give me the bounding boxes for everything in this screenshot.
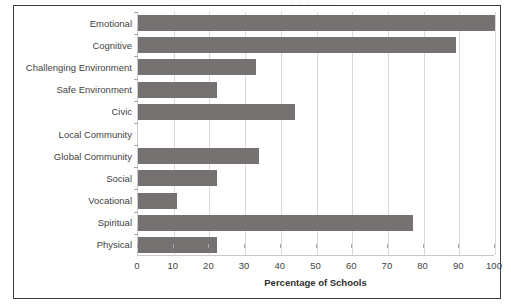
x-tick-label-50: 50 [310,260,321,272]
category-label-challenging-environment: Challenging Environment [14,62,132,73]
y-tick-mark [134,101,138,102]
bar-challenging-environment [138,59,256,75]
bar-cognitive [138,37,456,53]
y-tick-mark [134,167,138,168]
x-axis-tick-labels: 0102030405060708090100 [137,260,494,274]
bar-row [138,37,494,53]
y-tick-mark [134,12,138,13]
bar-vocational [138,193,177,209]
chart-figure: · · · · · · · · · · · · · · · · · · · · … [0,0,511,308]
x-tick-mark-50 [316,244,317,248]
bar-row [138,170,494,186]
category-axis-labels: EmotionalCognitiveChallenging Environmen… [14,12,132,256]
category-label-vocational: Vocational [14,195,132,206]
x-tick-label-70: 70 [382,260,393,272]
category-label-physical: Physical [14,239,132,250]
x-tick-mark-80 [423,244,424,248]
x-tick-label-80: 80 [417,260,428,272]
x-axis-title: Percentage of Schools [137,277,494,288]
bar-social [138,170,217,186]
x-tick-mark-90 [458,244,459,248]
bar-row [138,59,494,75]
category-label-local-community: Local Community [14,129,132,140]
x-tick-label-90: 90 [453,260,464,272]
bar-safe-environment [138,82,217,98]
y-tick-mark [134,79,138,80]
bar-row [138,193,494,209]
x-tick-label-30: 30 [239,260,250,272]
bar-row [138,15,494,31]
y-tick-mark [134,56,138,57]
bars-group [138,12,494,255]
category-label-emotional: Emotional [14,18,132,29]
x-tick-mark-20 [208,244,209,248]
y-tick-mark [134,189,138,190]
category-label-civic: Civic [14,106,132,117]
category-label-spiritual: Spiritual [14,217,132,228]
x-tick-label-60: 60 [346,260,357,272]
y-tick-mark [134,234,138,235]
bar-physical [138,237,217,253]
x-tick-label-0: 0 [134,260,139,272]
bar-row [138,126,494,142]
bar-spiritual [138,215,413,231]
x-tick-label-20: 20 [203,260,214,272]
bar-row [138,104,494,120]
bar-civic [138,104,295,120]
category-label-social: Social [14,173,132,184]
x-tick-label-100: 100 [486,260,502,272]
y-tick-mark [134,145,138,146]
y-tick-mark [134,34,138,35]
category-label-cognitive: Cognitive [14,40,132,51]
bar-row [138,215,494,231]
x-tick-mark-10 [173,244,174,248]
category-label-safe-environment: Safe Environment [14,84,132,95]
x-tick-label-40: 40 [275,260,286,272]
x-tick-mark-0 [137,244,138,248]
gridline-100 [495,12,496,255]
x-tick-label-10: 10 [167,260,178,272]
y-tick-mark [134,212,138,213]
y-tick-mark [134,123,138,124]
x-tick-mark-100 [494,244,495,248]
plot-area [137,12,494,256]
bar-emotional [138,15,495,31]
bar-global-community [138,148,259,164]
bar-row [138,82,494,98]
x-tick-mark-60 [351,244,352,248]
x-tick-mark-40 [280,244,281,248]
x-tick-mark-70 [387,244,388,248]
category-label-global-community: Global Community [14,151,132,162]
bar-row [138,148,494,164]
x-tick-mark-30 [244,244,245,248]
